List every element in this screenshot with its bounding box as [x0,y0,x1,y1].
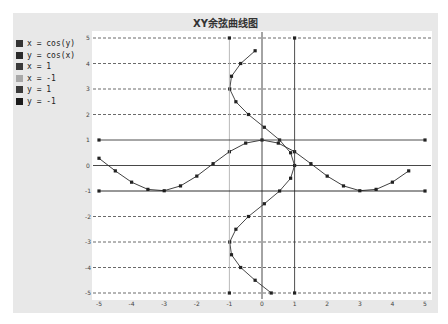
data-marker [97,157,100,160]
data-marker [97,138,100,141]
y-tick-label: 1 [86,136,90,143]
data-marker [247,215,250,218]
data-marker [293,291,296,294]
data-marker [423,138,426,141]
data-marker [195,175,198,178]
data-marker [244,142,247,145]
y-tick-label: 2 [86,111,90,118]
data-marker [342,184,345,187]
data-marker [270,291,273,294]
y-tick-label: -1 [85,187,91,194]
y-tick-label: -2 [85,213,91,220]
y-tick-label: 4 [86,60,90,67]
data-marker [309,162,312,165]
plot-area: -5-4-3-2-1012345543210-1-2-3-4-5 [0,0,448,324]
data-marker [254,279,257,282]
y-tick-label: -3 [85,238,91,245]
data-marker [179,184,182,187]
x-tick-label: 2 [325,300,329,307]
data-marker [230,253,233,256]
data-marker [254,49,257,52]
data-marker [97,189,100,192]
x-tick-label: -4 [129,300,135,307]
data-marker [289,177,292,180]
x-tick-label: -5 [96,300,102,307]
data-marker [130,181,133,184]
y-tick-label: 5 [86,34,90,41]
data-marker [277,142,280,145]
data-marker [114,169,117,172]
data-marker [391,181,394,184]
x-tick-label: 0 [260,300,264,307]
data-marker [263,126,266,129]
data-marker [228,291,231,294]
x-tick-label: -3 [161,300,167,307]
y-tick-label: -5 [85,289,91,296]
data-marker [234,228,237,231]
data-marker [263,202,266,205]
data-marker [230,75,233,78]
data-marker [239,266,242,269]
y-tick-label: 3 [86,85,90,92]
x-tick-label: 1 [293,300,297,307]
data-marker [228,36,231,39]
x-tick-label: -1 [226,300,232,307]
x-tick-label: 5 [423,300,427,307]
data-marker [375,188,378,191]
data-marker [423,189,426,192]
y-tick-label: 0 [86,162,90,169]
x-tick-label: 3 [358,300,362,307]
data-marker [239,62,242,65]
x-tick-label: 4 [390,300,394,307]
data-marker [289,151,292,154]
data-marker [212,162,215,165]
data-marker [146,188,149,191]
data-marker [234,100,237,103]
y-tick-label: -4 [85,264,91,271]
data-marker [326,175,329,178]
data-marker [293,36,296,39]
data-marker [247,113,250,116]
x-tick-label: -2 [194,300,200,307]
data-marker [407,169,410,172]
